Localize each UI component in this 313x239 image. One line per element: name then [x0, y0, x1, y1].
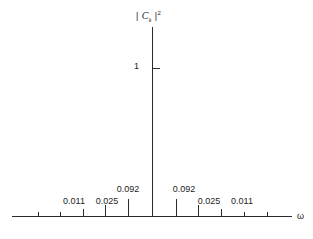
stem-right-0092 [176, 199, 177, 216]
x-axis-minor-tick [38, 212, 39, 217]
x-axis-title: ω [297, 211, 304, 221]
y-axis-title-exponent: 2 [157, 10, 161, 16]
line-spectrum-figure: 1 | Ck |2 ω 0.011 0.025 0.092 0.092 0.02… [0, 0, 313, 239]
stem-center-1 [152, 68, 153, 216]
stem-label-left-0025: 0.025 [96, 196, 119, 206]
stem-label-left-0092: 0.092 [117, 184, 140, 194]
stem-right-0011 [221, 209, 222, 216]
x-axis-minor-tick [60, 212, 61, 217]
stem-label-right-0025: 0.025 [198, 196, 221, 206]
y-axis-title-bar-left: | [136, 11, 139, 21]
stem-right-0025 [198, 205, 199, 216]
stem-label-left-0011: 0.011 [63, 196, 85, 206]
stem-left-0011 [83, 209, 84, 216]
y-axis-title: | Ck |2 [136, 8, 161, 26]
y-axis-title-subscript: k [149, 17, 152, 23]
y-axis-tick-label-1: 1 [134, 61, 139, 71]
stem-label-right-0011: 0.011 [231, 196, 253, 206]
x-axis-minor-tick [267, 212, 268, 217]
x-axis-minor-tick [244, 212, 245, 217]
y-axis-tick-1 [153, 68, 160, 69]
stem-left-0025 [105, 205, 106, 216]
stem-label-right-0092: 0.092 [173, 184, 196, 194]
y-axis-title-symbol: C [142, 10, 149, 21]
stem-left-0092 [128, 199, 129, 216]
